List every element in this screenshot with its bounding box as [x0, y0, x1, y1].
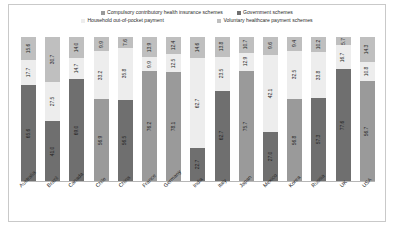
bar-value-label: 56.9	[99, 135, 104, 145]
bar-value-label: 27.5	[50, 97, 55, 107]
bar-value-label: 12.9	[244, 57, 249, 67]
bar-value-label: 56.8	[292, 135, 297, 145]
legend-label-household: Household out-of-pocket payment	[87, 18, 163, 23]
bar-value-label: 76.2	[147, 121, 152, 131]
bar-value-label: 30.7	[50, 54, 55, 64]
bar-column[interactable]: 15.617.765.6	[21, 37, 36, 181]
bar-column[interactable]: 10.712.975.7	[239, 37, 254, 181]
bar-value-label: 10.2	[316, 39, 321, 49]
legend-swatch-government	[237, 11, 241, 15]
bar-column[interactable]: 14.662.722.7	[190, 37, 205, 181]
legend-item-government[interactable]: Government schemes	[237, 10, 293, 15]
x-axis-tick-label: Brazil	[45, 183, 60, 223]
bar-column[interactable]: 5.716.777.6	[336, 37, 351, 181]
bar-segment-household: 9.9	[142, 57, 157, 71]
bar-column[interactable]: 9.432.556.8	[287, 37, 302, 181]
bar-column[interactable]: 30.727.541.0	[45, 37, 60, 181]
chart-screenshot: Compulsory contributory health insurance…	[0, 0, 394, 235]
bar-value-label: 9.9	[99, 41, 104, 48]
legend-row-1: Compulsory contributory health insurance…	[23, 10, 371, 18]
bar-segment-voluntary: 5.7	[336, 37, 351, 45]
bar-segment-voluntary: 12.4	[166, 37, 181, 54]
bar-segment-household: 33.2	[94, 51, 109, 99]
bar-value-label: 32.5	[292, 70, 297, 80]
bar-segment-voluntary: 30.7	[45, 37, 60, 82]
bar-segment-household: 62.7	[190, 58, 205, 148]
bar-segment-base: 65.6	[21, 85, 36, 181]
x-axis-tick-label: Chile	[94, 183, 109, 223]
bar-segment-base: 78.1	[166, 72, 181, 181]
bar-segment-voluntary: 14.6	[190, 37, 205, 58]
bar-column[interactable]: 14.310.856.7	[360, 37, 375, 181]
bar-value-label: 27.0	[268, 151, 273, 161]
bar-segment-household: 12.5	[166, 54, 181, 71]
x-axis-tick-label: Japan	[239, 183, 254, 223]
bar-value-label: 12.4	[171, 41, 176, 51]
bar-value-label: 41.0	[50, 146, 55, 156]
bar-column[interactable]: 9.933.256.9	[94, 37, 109, 181]
bar-value-label: 10.7	[244, 40, 249, 50]
bar-value-label: 13.9	[147, 42, 152, 52]
bar-value-label: 9.4	[292, 40, 297, 47]
bar-segment-voluntary: 9.4	[287, 37, 302, 51]
bar-value-label: 7.6	[123, 39, 128, 46]
bar-segment-base: 77.6	[336, 69, 351, 181]
bar-value-label: 15.6	[26, 43, 31, 53]
bar-segment-voluntary: 13.8	[215, 37, 230, 57]
bar-segment-base: 56.8	[287, 99, 302, 181]
bar-value-label: 14.7	[74, 64, 79, 74]
bar-column[interactable]: 9.642.127.0	[263, 37, 278, 181]
x-axis-tick-label: Germany	[166, 183, 181, 223]
legend-swatch-household	[81, 19, 85, 23]
chart-plot-area: 15.617.765.630.727.541.014.014.769.09.93…	[21, 37, 375, 181]
bar-value-label: 14.3	[365, 45, 370, 55]
bar-segment-voluntary: 15.6	[21, 37, 36, 60]
bar-segment-household: 33.8	[311, 52, 326, 99]
bar-value-label: 9.6	[268, 42, 273, 49]
x-axis-tick-label: China	[118, 183, 133, 223]
bar-segment-base: 69.0	[69, 79, 84, 181]
bar-value-label: 57.3	[316, 135, 321, 145]
bar-segment-base: 56.5	[118, 100, 133, 181]
bar-segment-voluntary: 14.0	[69, 37, 84, 58]
x-axis-tick-label: UK	[336, 183, 351, 223]
bar-value-label: 78.1	[171, 122, 176, 132]
bar-column[interactable]: 13.99.976.2	[142, 37, 157, 181]
bar-segment-base: 75.7	[239, 71, 254, 181]
x-axis-tick-label: USA	[360, 183, 375, 223]
legend-item-compulsory[interactable]: Compulsory contributory health insurance…	[101, 10, 229, 15]
legend-item-household[interactable]: Household out-of-pocket payment	[81, 18, 209, 23]
legend-item-voluntary[interactable]: Voluntary healthcare payment schemes	[217, 18, 312, 23]
bar-segment-voluntary: 10.7	[239, 37, 254, 53]
legend-label-compulsory: Compulsory contributory health insurance…	[107, 10, 223, 15]
bar-column[interactable]: 12.412.578.1	[166, 37, 181, 181]
bar-segment-household: 14.7	[69, 58, 84, 80]
bar-value-label: 75.7	[244, 121, 249, 131]
bar-segment-voluntary: 9.6	[263, 37, 278, 55]
bar-value-label: 65.6	[26, 128, 31, 138]
bar-segment-household: 23.5	[215, 57, 230, 91]
x-axis-labels: AustraliaBrazilCanadaChileChinaFranceGer…	[21, 183, 375, 223]
bar-column[interactable]: 14.014.769.0	[69, 37, 84, 181]
bar-value-label: 13.8	[220, 42, 225, 52]
bar-value-label: 14.6	[195, 43, 200, 53]
bar-value-label: 22.7	[195, 160, 200, 170]
legend-row-2: Household out-of-pocket payment Voluntar…	[23, 18, 371, 26]
bar-column[interactable]: 13.823.562.7	[215, 37, 230, 181]
x-axis-tick-label: Australia	[21, 183, 36, 223]
bar-segment-household: 10.8	[360, 62, 375, 81]
x-axis-tick-label: India	[190, 183, 205, 223]
x-axis-tick-label: Russia	[311, 183, 326, 223]
x-axis-tick-label: Canada	[69, 183, 84, 223]
bar-value-label: 33.8	[316, 70, 321, 80]
bar-segment-household: 35.8	[118, 48, 133, 100]
bar-value-label: 62.7	[220, 131, 225, 141]
bar-column[interactable]: 10.233.857.3	[311, 37, 326, 181]
chart-legend: Compulsory contributory health insurance…	[9, 10, 385, 26]
bar-column[interactable]: 7.635.856.5	[118, 37, 133, 181]
x-axis-tick-label: Korea	[287, 183, 302, 223]
x-axis-tick-label: Italy	[215, 183, 230, 223]
legend-label-voluntary: Voluntary healthcare payment schemes	[223, 18, 312, 23]
bar-value-label: 9.9	[147, 61, 152, 68]
bar-value-label: 35.8	[123, 69, 128, 79]
